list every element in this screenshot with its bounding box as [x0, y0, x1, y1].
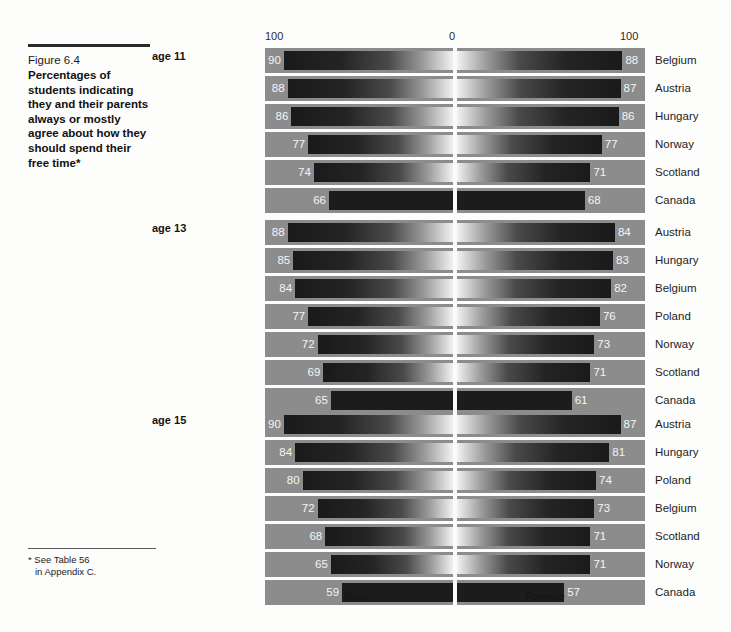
male-value-label: 69 — [307, 360, 323, 385]
chart-row: Norway7273Norway — [265, 332, 645, 357]
row-label-right: Hungary — [655, 440, 731, 465]
chart-row: Austria9088Belgium — [265, 48, 645, 73]
footnote-text: * See Table 56 in Appendix C. — [28, 554, 156, 578]
footnote-rule — [28, 548, 156, 549]
male-bar — [329, 191, 453, 210]
female-half-track: 73 — [457, 496, 645, 521]
male-value-label: 90 — [268, 48, 284, 73]
male-half-track: 77 — [265, 132, 453, 157]
female-bar — [457, 223, 615, 242]
figure-number: Figure 6.4 — [28, 53, 150, 67]
female-half-track: 83 — [457, 248, 645, 273]
male-bar — [284, 415, 453, 434]
male-value-label: 72 — [302, 496, 318, 521]
female-bar — [457, 415, 621, 434]
female-value-label: 71 — [590, 160, 606, 185]
female-value-label: 76 — [600, 304, 616, 329]
male-half-track: 72 — [265, 496, 453, 521]
female-bar — [457, 135, 602, 154]
panel-rows: Austria9088BelgiumHungary8887AustriaBelg… — [265, 48, 645, 213]
chart-row: Norway6571Norway — [265, 552, 645, 577]
male-bar — [314, 163, 453, 182]
female-half-track: 87 — [457, 76, 645, 101]
female-value-label: 82 — [611, 276, 627, 301]
chart-row: Hungary8583Hungary — [265, 248, 645, 273]
row-label-right: Belgium — [655, 496, 731, 521]
chart-row: Austria9087Austria — [265, 412, 645, 437]
female-value-label: 81 — [609, 440, 625, 465]
male-value-label: 74 — [298, 160, 314, 185]
female-bar — [457, 499, 594, 518]
male-value-label: 88 — [272, 220, 288, 245]
female-bar — [457, 335, 594, 354]
male-half-track: 90 — [265, 412, 453, 437]
male-value-label: 84 — [279, 276, 295, 301]
female-value-label: 86 — [619, 104, 635, 129]
chart-row: Canada6668Canada — [265, 188, 645, 213]
male-half-track: 65 — [265, 552, 453, 577]
row-label-right: Belgium — [655, 276, 731, 301]
chart-row: Poland7776Poland — [265, 304, 645, 329]
male-value-label: 86 — [276, 104, 292, 129]
female-half-track: 82 — [457, 276, 645, 301]
female-value-label: 71 — [590, 552, 606, 577]
legend-female: Female — [525, 590, 565, 602]
row-label-right: Scotland — [655, 360, 731, 385]
axis-tick-row: 100 0 100 — [0, 28, 731, 44]
chart-row: Belgium8686Hungary — [265, 104, 645, 129]
female-bar — [457, 527, 590, 546]
figure-title: Percentages of students indicating they … — [28, 68, 150, 170]
male-bar — [331, 555, 453, 574]
male-bar — [308, 135, 453, 154]
male-value-label: 77 — [292, 132, 308, 157]
male-half-track: 90 — [265, 48, 453, 73]
male-bar — [295, 443, 453, 462]
female-value-label: 83 — [613, 248, 629, 273]
female-value-label: 61 — [572, 388, 588, 413]
figure-footnote: * See Table 56 in Appendix C. — [28, 548, 156, 578]
row-label-right: Austria — [655, 412, 731, 437]
male-half-track: 84 — [265, 440, 453, 465]
panel-rows: Austria8884AustriaHungary8583HungaryBelg… — [265, 220, 645, 413]
male-bar — [293, 251, 453, 270]
female-value-label: 84 — [615, 220, 631, 245]
male-half-track: 85 — [265, 248, 453, 273]
female-bar — [457, 363, 590, 382]
panel-rows: Austria9087AustriaBelgium8481HungaryHung… — [265, 412, 645, 605]
female-bar — [457, 279, 611, 298]
male-bar — [303, 471, 453, 490]
row-label-right: Norway — [655, 132, 731, 157]
male-bar — [318, 335, 453, 354]
female-value-label: 88 — [622, 48, 638, 73]
female-value-label: 71 — [590, 524, 606, 549]
row-label-right: Belgium — [655, 48, 731, 73]
panel-age-label: age 15 — [152, 414, 186, 426]
male-bar — [288, 223, 453, 242]
row-label-right: Norway — [655, 552, 731, 577]
female-bar — [457, 191, 585, 210]
male-bar — [318, 499, 453, 518]
female-bar — [457, 79, 621, 98]
male-half-track: 88 — [265, 76, 453, 101]
male-half-track: 88 — [265, 220, 453, 245]
legend-male: Male — [344, 590, 370, 602]
male-value-label: 80 — [287, 468, 303, 493]
footnote-line-1: * See Table 56 — [28, 554, 90, 565]
female-bar — [457, 443, 609, 462]
male-value-label: 68 — [309, 524, 325, 549]
female-half-track: 87 — [457, 412, 645, 437]
row-label-right: Canada — [655, 388, 731, 413]
female-half-track: 84 — [457, 220, 645, 245]
female-bar — [457, 51, 622, 70]
chart-row: Poland7273Belgium — [265, 496, 645, 521]
female-value-label: 74 — [596, 468, 612, 493]
female-bar — [457, 391, 572, 410]
female-value-label: 68 — [585, 188, 601, 213]
female-bar — [457, 471, 596, 490]
female-half-track: 88 — [457, 48, 645, 73]
axis-tick-right: 100 — [620, 28, 638, 44]
chart-row: Scotland7471Scotland — [265, 160, 645, 185]
female-bar — [457, 251, 613, 270]
female-half-track: 73 — [457, 332, 645, 357]
footnote-line-2: in Appendix C. — [28, 566, 156, 578]
